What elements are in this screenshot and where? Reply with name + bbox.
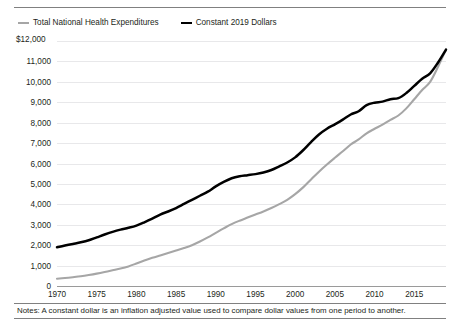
x-axis-tick-label: 2015: [405, 290, 424, 299]
y-axis-tick-label: 11,000: [27, 57, 52, 66]
y-axis-tick-label: 5,000: [31, 180, 52, 189]
y-axis-tick-labels: 11,00010,0009,0008,0007,0006,0005,0004,0…: [26, 57, 51, 291]
y-axis-tick-label: 4,000: [31, 200, 52, 209]
y-axis-tick-label: 9,000: [31, 98, 52, 107]
gridlines: [57, 42, 446, 267]
plot-area: 11,00010,0009,0008,0007,0006,0005,0004,0…: [0, 0, 460, 330]
chart-notes: Notes: A constant dollar is an inflation…: [17, 306, 447, 316]
x-axis-tick-label: 2010: [365, 290, 384, 299]
x-axis-tick-label: 1980: [127, 290, 146, 299]
x-axis-tick-label: 1970: [48, 290, 67, 299]
notes-divider-bottom: [14, 318, 446, 319]
chart-svg: 11,00010,0009,0008,0007,0006,0005,0004,0…: [0, 0, 460, 330]
y-axis-unit-label: $12,000: [16, 36, 46, 44]
x-axis-tick-label: 1995: [246, 290, 265, 299]
notes-divider-top: [14, 303, 446, 304]
x-axis-tick-label: 2000: [286, 290, 305, 299]
y-axis-tick-label: 7,000: [31, 139, 52, 148]
x-axis-tick-labels: 1970197519801985199019952000200520102015: [48, 290, 424, 299]
y-axis-tick-label: 10,000: [26, 78, 51, 87]
x-axis-tick-label: 1990: [207, 290, 226, 299]
x-axis-tick-label: 1985: [167, 290, 186, 299]
series-line: [57, 50, 446, 248]
x-axis-tick-label: 1975: [88, 290, 107, 299]
chart-figure: Total National Health Expenditures Const…: [0, 0, 460, 330]
y-axis-tick-label: 8,000: [31, 119, 52, 128]
y-axis-tick-label: 6,000: [31, 160, 52, 169]
y-axis-tick-label: 2,000: [31, 241, 52, 250]
y-axis-tick-label: 1,000: [31, 262, 52, 271]
y-axis-tick-label: 3,000: [31, 221, 52, 230]
x-axis-tick-label: 2005: [326, 290, 345, 299]
